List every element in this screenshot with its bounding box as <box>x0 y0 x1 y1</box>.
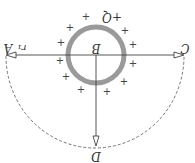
svg-text:+: + <box>103 86 111 97</box>
svg-text:+: + <box>121 25 129 36</box>
arrowhead-d-icon <box>93 136 99 146</box>
svg-text:+: + <box>120 76 128 87</box>
svg-text:+: + <box>82 11 90 22</box>
label-center-b: B <box>91 41 101 55</box>
svg-text:+: + <box>62 71 70 82</box>
label-radius-r1: r₁ <box>18 43 27 54</box>
charged-shell-diagram: + + + + + + + + + + + +Q B A r₁ C D <box>0 0 195 162</box>
dashed-path-arc <box>6 56 184 148</box>
label-point-d: D <box>91 149 102 163</box>
diagram-canvas: + + + + + + + + + + + +Q B A r₁ C D <box>0 0 195 162</box>
svg-text:+: + <box>129 58 137 69</box>
svg-text:+: + <box>77 84 85 95</box>
svg-text:+: + <box>57 37 65 48</box>
label-charge-q: +Q <box>102 10 122 24</box>
svg-text:+: + <box>129 39 137 50</box>
svg-text:+: + <box>66 22 74 33</box>
label-point-a: A <box>3 41 13 55</box>
svg-text:+: + <box>56 55 64 66</box>
label-point-c: C <box>180 41 189 55</box>
